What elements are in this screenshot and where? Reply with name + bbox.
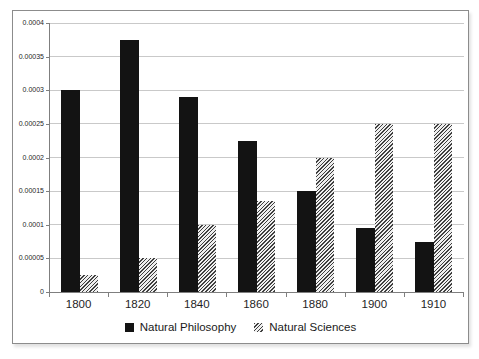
bar-natural-philosophy: [179, 97, 198, 292]
x-axis-tick: [49, 293, 50, 297]
x-axis-label: 1900: [346, 298, 402, 311]
y-axis-label: 0.0001: [13, 221, 44, 229]
chart-box: Natural Philosophy Natural Sciences 00.0…: [12, 10, 469, 344]
x-axis-tick: [108, 293, 109, 297]
y-axis-tick: [46, 225, 49, 226]
y-axis-tick: [46, 124, 49, 125]
legend-item-natural-philosophy: Natural Philosophy: [125, 321, 237, 333]
bar-natural-sciences: [434, 124, 452, 292]
natural-philosophy-swatch-icon: [125, 323, 134, 332]
gridline: [50, 157, 464, 158]
x-axis-tick: [463, 293, 464, 297]
bar-natural-philosophy: [356, 228, 375, 292]
x-axis-label: 1840: [169, 298, 225, 311]
x-axis-tick: [345, 293, 346, 297]
gridline: [50, 191, 464, 192]
y-axis-label: 0.00035: [13, 53, 44, 61]
bar-natural-sciences: [316, 158, 334, 293]
bar-natural-sciences: [80, 275, 98, 292]
bar-natural-philosophy: [120, 40, 139, 292]
y-axis-tick: [46, 90, 49, 91]
legend-label-natural-philosophy: Natural Philosophy: [140, 321, 237, 333]
x-axis-label: 1820: [110, 298, 166, 311]
y-axis-label: 0.0002: [13, 154, 44, 162]
bar-natural-sciences: [139, 258, 157, 292]
x-axis-tick: [167, 293, 168, 297]
y-axis-label: 0.00025: [13, 120, 44, 128]
x-axis-label: 1880: [287, 298, 343, 311]
natural-sciences-swatch-icon: [254, 323, 263, 332]
x-axis-label: 1910: [405, 298, 461, 311]
y-axis-label: 0.0003: [13, 86, 44, 94]
gridline: [50, 90, 464, 91]
bar-natural-philosophy: [297, 191, 316, 292]
gridline: [50, 23, 464, 24]
bar-natural-philosophy: [61, 90, 80, 292]
gridline: [50, 56, 464, 57]
x-axis-tick: [226, 293, 227, 297]
y-axis-tick: [46, 57, 49, 58]
y-axis-label: 0.00005: [13, 254, 44, 262]
y-axis-tick: [46, 23, 49, 24]
plot-area: [49, 23, 464, 293]
x-axis-label: 1860: [228, 298, 284, 311]
x-axis-tick: [286, 293, 287, 297]
y-axis-label: 0.0004: [13, 19, 44, 27]
x-axis-tick: [404, 293, 405, 297]
legend-item-natural-sciences: Natural Sciences: [254, 321, 356, 333]
x-axis-label: 1800: [51, 298, 107, 311]
y-axis-tick: [46, 191, 49, 192]
bar-natural-sciences: [198, 225, 216, 292]
bar-natural-philosophy: [415, 242, 434, 292]
y-axis-tick: [46, 258, 49, 259]
y-axis-label: 0.00015: [13, 187, 44, 195]
y-axis-label: 0: [13, 288, 44, 296]
legend-label-natural-sciences: Natural Sciences: [269, 321, 356, 333]
bar-natural-philosophy: [238, 141, 257, 292]
bar-natural-sciences: [375, 124, 393, 292]
y-axis-tick: [46, 158, 49, 159]
bar-natural-sciences: [257, 201, 275, 292]
gridline: [50, 123, 464, 124]
legend: Natural Philosophy Natural Sciences: [13, 321, 468, 333]
